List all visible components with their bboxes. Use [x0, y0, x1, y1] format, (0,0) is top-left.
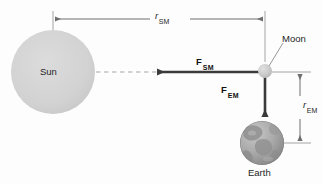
figure-canvas: Sun Moon Earth rSM rEM FSM FEM: [0, 0, 323, 184]
force-em-label: FEM: [221, 85, 238, 97]
moon-label: Moon: [282, 34, 306, 44]
distance-earth-moon-subscript: EM: [307, 107, 318, 114]
sun-label: Sun: [40, 67, 57, 77]
distance-earth-moon-label: rEM: [303, 100, 317, 112]
earth-label: Earth: [248, 168, 271, 178]
distance-sun-moon-label: rSM: [155, 11, 169, 23]
distance-sun-moon-symbol: r: [155, 10, 158, 21]
moon-body: [258, 64, 272, 78]
force-em-symbol: F: [221, 84, 227, 95]
force-em-subscript: EM: [228, 92, 239, 99]
moon-callout-leader: [269, 43, 283, 66]
distance-sun-moon-subscript: SM: [159, 18, 170, 25]
diagram-vector-layer: [0, 0, 323, 184]
force-sm-symbol: F: [196, 56, 202, 67]
force-sm-subscript: SM: [203, 64, 214, 71]
force-sm-label: FSM: [196, 57, 213, 69]
distance-earth-moon-symbol: r: [303, 99, 306, 110]
